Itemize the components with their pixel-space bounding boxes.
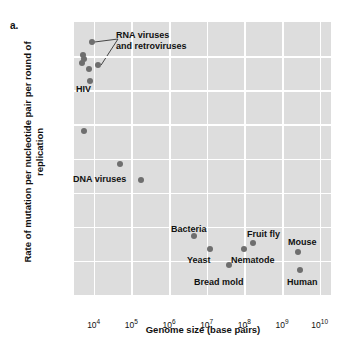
data-point-dna-virus-3 <box>138 177 144 183</box>
gridline-horizontal <box>74 56 331 58</box>
dna-viruses-label: DNA viruses <box>73 174 126 185</box>
human-label: Human <box>287 277 318 288</box>
mouse-label: Mouse <box>288 237 317 248</box>
y-axis-title: Rate of mutation per nucleotide pair per… <box>22 22 46 282</box>
x-axis-title: Genome size (base pairs) <box>74 324 332 335</box>
nematode-label: Nematode <box>231 255 275 266</box>
data-point-rna-virus-1 <box>89 39 95 45</box>
mutation-rate-scatter-figure: a. Rate of mutation per nucleotide pair … <box>0 0 345 344</box>
data-point-hiv <box>87 78 93 84</box>
panel-label: a. <box>10 20 18 31</box>
hiv-label: HIV <box>76 84 91 95</box>
data-point-dna-virus-2 <box>117 161 123 167</box>
data-point-rna-virus-6 <box>86 66 92 72</box>
gridline-horizontal <box>74 193 331 195</box>
data-point-rna-virus-5 <box>95 62 101 68</box>
leader-line-rna-virus-1 <box>95 39 118 42</box>
fruit-fly-label: Fruit fly <box>247 229 280 240</box>
data-point-mouse <box>295 249 301 255</box>
data-point-yeast <box>207 246 213 252</box>
data-point-rna-virus-4 <box>79 60 85 66</box>
data-point-fruit-fly <box>250 240 256 246</box>
bacteria-label: Bacteria <box>171 224 207 235</box>
rna-viruses-label: RNA virusesand retroviruses <box>116 30 187 52</box>
bread-mold-label: Bread mold <box>194 277 244 288</box>
plot-area: 104105106107108109101010−310−410−510−610… <box>74 22 331 295</box>
gridline-horizontal <box>74 159 331 161</box>
data-point-dna-virus-1 <box>81 128 87 134</box>
data-point-nematode <box>241 246 247 252</box>
gridline-horizontal <box>74 90 331 92</box>
yeast-label: Yeast <box>187 255 211 266</box>
data-point-human <box>297 267 303 273</box>
gridline-horizontal <box>74 124 331 126</box>
